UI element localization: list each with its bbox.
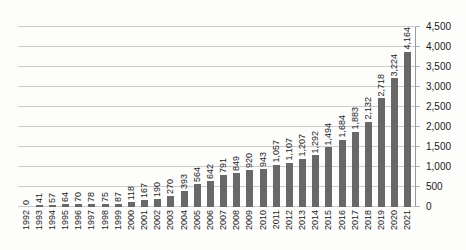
x-tick-label-text: 1993	[35, 210, 44, 230]
bar	[181, 191, 188, 207]
bar-value-label: 2,718	[377, 74, 386, 97]
x-tick-label-text: 2001	[140, 210, 149, 230]
x-tick-label-text: 2002	[153, 210, 162, 230]
bar	[325, 147, 332, 207]
x-tick-label-text: 2010	[259, 210, 268, 230]
bar-value-label: 190	[153, 182, 162, 197]
x-tick-label-text: 1992	[22, 210, 31, 230]
bar-value-label: 41	[35, 193, 44, 203]
x-tick-label: 2016	[336, 210, 348, 230]
x-tick-label: 1994	[46, 210, 58, 230]
bar-value-label: 270	[166, 179, 175, 194]
x-tick-label: 2009	[244, 210, 256, 230]
bar-value-label: 118	[127, 186, 136, 200]
bar	[273, 165, 280, 207]
bar-column: 1,207	[297, 27, 309, 207]
bar-column: 2,718	[376, 27, 388, 207]
y-tick-label: 2,500	[426, 102, 451, 112]
x-tick-label: 2000	[125, 210, 137, 230]
x-tick-label: 2017	[349, 210, 361, 230]
x-tick-label-text: 1997	[87, 210, 96, 230]
x-tick-label: 1999	[112, 210, 124, 230]
bar	[404, 52, 411, 207]
y-tick-label: 2,000	[426, 122, 451, 132]
y-tick-label: 4,000	[426, 42, 451, 52]
x-tick-label-text: 2007	[219, 210, 228, 230]
bar-column: 642	[204, 27, 216, 207]
bar-column: 3,224	[389, 27, 401, 207]
bar-column: 87	[112, 27, 124, 207]
bar-column: 4,164	[402, 27, 414, 207]
x-tick-label: 2003	[165, 210, 177, 230]
bar-value-label: 1,684	[338, 115, 347, 138]
bar	[141, 200, 148, 207]
bar	[75, 204, 82, 207]
bar-column: 70	[73, 27, 85, 207]
bar-value-label: 920	[245, 153, 254, 168]
x-tick-label: 1996	[73, 210, 85, 230]
bar	[49, 205, 56, 207]
bar-value-label: 1,494	[324, 123, 333, 146]
y-tick-label: 1,500	[426, 142, 451, 152]
bar	[260, 169, 267, 207]
bar	[167, 196, 174, 207]
y-axis-tick-mark	[416, 86, 420, 87]
y-axis-labels: 05001,0001,5002,0002,5003,0003,5004,0004…	[426, 27, 466, 207]
x-tick-label: 2013	[297, 210, 309, 230]
x-tick-label: 2004	[178, 210, 190, 230]
y-tick-label: 3,000	[426, 82, 451, 92]
bar-column: 167	[139, 27, 151, 207]
bar-value-label: 1,207	[298, 134, 307, 157]
bar-value-label: 70	[74, 192, 83, 202]
x-tick-label-text: 2013	[298, 210, 307, 230]
bar-value-label: 64	[61, 192, 70, 202]
x-tick-label-text: 1996	[74, 210, 83, 230]
x-tick-label: 2014	[310, 210, 322, 230]
bar-value-label: 1,292	[311, 131, 320, 154]
x-tick-label: 1997	[86, 210, 98, 230]
x-tick-label: 2015	[323, 210, 335, 230]
x-tick-label-text: 2014	[311, 210, 320, 230]
x-tick-label-text: 2003	[166, 210, 175, 230]
bar-column: 75	[99, 27, 111, 207]
bar-value-label: 791	[219, 158, 228, 173]
bar-column: 791	[218, 27, 230, 207]
bar-column: 1,684	[336, 27, 348, 207]
bar-column: 920	[244, 27, 256, 207]
bar-column: 0	[20, 27, 32, 207]
bar	[115, 204, 122, 207]
bar-column: 1,883	[349, 27, 361, 207]
y-axis-tick-mark	[416, 206, 420, 207]
x-tick-label-text: 2005	[193, 210, 202, 230]
x-tick-label: 2018	[362, 210, 374, 230]
bar-chart-figure: 0415764707875871181671902703935646427918…	[0, 0, 466, 250]
bar	[220, 175, 227, 207]
bar	[102, 204, 109, 207]
bar	[299, 159, 306, 207]
bar-value-label: 564	[193, 167, 202, 182]
bar-column: 849	[231, 27, 243, 207]
x-tick-label: 2001	[139, 210, 151, 230]
bar	[339, 140, 346, 207]
x-tick-label: 2011	[270, 210, 282, 229]
bar	[36, 205, 43, 207]
bar	[391, 78, 398, 207]
x-tick-label-text: 1994	[48, 210, 57, 230]
bar-value-label: 3,224	[390, 54, 399, 77]
y-tick-label: 1,000	[426, 162, 451, 172]
bar-value-label: 167	[140, 183, 149, 198]
x-tick-label: 2002	[152, 210, 164, 230]
bar-column: 1,057	[270, 27, 282, 207]
bar	[378, 98, 385, 207]
bar	[312, 155, 319, 207]
bar-value-label: 1,057	[272, 140, 281, 163]
x-tick-label: 2008	[231, 210, 243, 230]
plot-area: 0415764707875871181671902703935646427918…	[18, 27, 416, 207]
x-tick-label: 2010	[257, 210, 269, 230]
bar-value-label: 1,883	[351, 107, 360, 130]
bar-value-label: 4,164	[403, 27, 412, 50]
bar-value-label: 849	[232, 156, 241, 171]
bar-column: 943	[257, 27, 269, 207]
bar-value-label: 0	[22, 200, 31, 205]
bar-value-label: 642	[206, 164, 215, 179]
